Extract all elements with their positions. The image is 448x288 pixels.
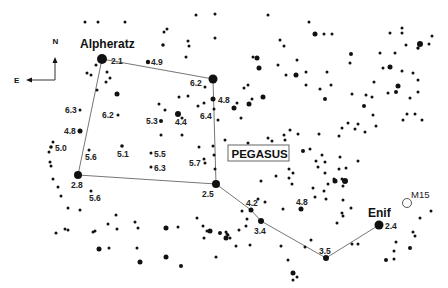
- star-dot: [185, 56, 188, 59]
- star-dot: [401, 27, 404, 30]
- star-dot: [345, 167, 348, 170]
- star-dot: [55, 232, 58, 235]
- star-dot: [187, 40, 190, 43]
- star-dot: [136, 247, 139, 250]
- star-dot: [188, 45, 191, 48]
- star-dot: [350, 207, 353, 210]
- star-dot: [365, 94, 368, 97]
- star-dot: [164, 109, 167, 112]
- star-dot: [394, 52, 397, 55]
- star-magnitude: 2.1: [111, 56, 123, 66]
- star-dot: [283, 45, 286, 48]
- star-dot: [362, 104, 366, 108]
- star-dot: [164, 255, 169, 260]
- star-dot: [296, 276, 299, 279]
- star-dot: [134, 221, 137, 224]
- star-magnitude: 2.8: [71, 180, 83, 190]
- star-dot: [394, 90, 398, 94]
- star-dot: [212, 145, 215, 148]
- globular-cluster-m15: M15: [403, 189, 430, 208]
- labeled-star: [299, 207, 304, 212]
- star-dot: [282, 208, 285, 211]
- star-dot: [202, 225, 205, 228]
- star-dot: [417, 79, 420, 82]
- star-dot: [323, 97, 327, 101]
- star-dot: [308, 21, 311, 24]
- star-dot: [213, 108, 216, 111]
- star-magnitude: 5.6: [89, 193, 101, 203]
- star-dot: [405, 44, 408, 47]
- star-dot: [90, 74, 93, 77]
- star-dot: [246, 218, 249, 221]
- star-dot: [342, 199, 345, 202]
- star-dot: [375, 125, 378, 128]
- star-dot: [225, 231, 228, 234]
- star-dot: [138, 260, 143, 265]
- star-name-enif: Enif: [368, 206, 392, 220]
- star-dot: [401, 70, 404, 73]
- star-dot: [401, 32, 404, 35]
- star-dot: [296, 59, 299, 62]
- star-magnitude: 2.4: [385, 221, 397, 231]
- star-dot: [96, 89, 99, 92]
- constellation-label: PEGASUS: [228, 145, 289, 161]
- star-dot: [317, 166, 320, 169]
- star-dot: [315, 160, 318, 163]
- star-dot: [243, 87, 246, 90]
- star-magnitude: 6.2: [190, 78, 202, 88]
- star-magnitude: 3.5: [319, 246, 331, 256]
- labeled-star: [117, 114, 120, 117]
- star-dot: [347, 122, 350, 125]
- star-dot: [324, 172, 327, 175]
- star-dot: [318, 133, 321, 136]
- constellation-name: PEGASUS: [232, 148, 289, 160]
- star-dot: [289, 129, 292, 132]
- labeled-star: [150, 152, 153, 155]
- star-dot: [213, 154, 216, 157]
- star-dot: [379, 52, 382, 55]
- star-dot: [364, 131, 367, 134]
- star-dot: [393, 258, 396, 261]
- star-magnitude: 6.2: [102, 110, 114, 120]
- star-dot: [349, 62, 352, 65]
- star-dot: [107, 223, 110, 226]
- star-magnitude: 4.8: [218, 95, 230, 105]
- star-dot: [50, 165, 53, 168]
- star-dot: [178, 96, 181, 99]
- star-dot: [304, 246, 307, 249]
- star-dot: [323, 190, 326, 193]
- labeled-star: [212, 180, 220, 188]
- star-dot: [279, 39, 282, 42]
- labeled-star: [78, 129, 83, 134]
- star-dot: [161, 43, 165, 47]
- star-dot: [417, 41, 423, 47]
- star-dot: [60, 195, 63, 198]
- star-dot: [163, 31, 166, 34]
- star-dot: [251, 98, 254, 101]
- star-magnitude: 5.5: [154, 149, 166, 159]
- star-dot: [338, 168, 341, 171]
- star-dot: [284, 139, 287, 142]
- star-dot: [105, 81, 108, 84]
- star-dot: [414, 113, 417, 116]
- star-dot: [333, 179, 338, 184]
- star-dot: [373, 81, 376, 84]
- star-dot: [247, 84, 250, 87]
- star-dot: [431, 35, 434, 38]
- star-dot: [323, 33, 326, 36]
- star-dot: [417, 91, 420, 94]
- star-dot: [164, 226, 169, 231]
- star-dot: [195, 14, 198, 17]
- star-dot: [312, 187, 315, 190]
- star-dot: [95, 64, 98, 67]
- star-dot: [116, 228, 119, 231]
- star-dot: [236, 102, 239, 105]
- star-dot: [84, 21, 87, 24]
- labeled-star: [211, 97, 216, 102]
- star-dot: [214, 37, 217, 40]
- star-dot: [372, 114, 375, 117]
- star-dot: [203, 158, 206, 161]
- star-dot: [198, 146, 201, 149]
- star-dot: [264, 201, 267, 204]
- star-dot: [387, 92, 390, 95]
